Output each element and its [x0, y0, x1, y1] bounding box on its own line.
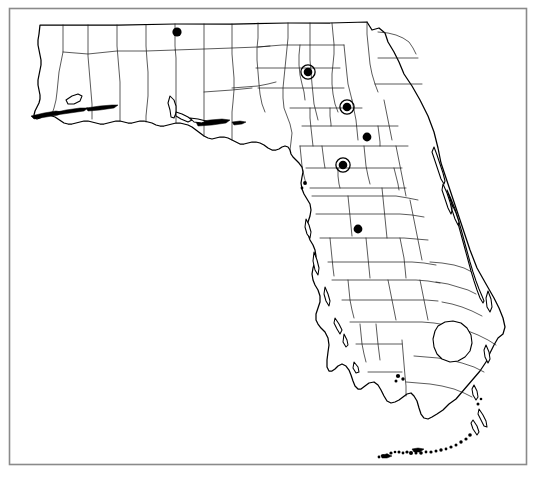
- key-dot-20: [389, 451, 392, 454]
- gulf-small-island-2: [401, 377, 404, 380]
- map-figure: [0, 0, 535, 479]
- key-dot-7: [449, 445, 452, 448]
- gulf-small-island-1: [396, 374, 400, 378]
- key-dot-12: [425, 451, 428, 454]
- florida-mainland-outline: [34, 22, 505, 419]
- key-dot-5: [459, 440, 462, 443]
- state-outline-group: [34, 22, 505, 419]
- marker-1[interactable]: [172, 27, 181, 36]
- marker-6[interactable]: [354, 225, 363, 234]
- key-dot-8: [445, 448, 448, 451]
- key-largo: [478, 409, 487, 427]
- marker-dot-solid: [363, 133, 372, 142]
- marker-dot-solid: [339, 161, 348, 170]
- key-dot-9: [439, 448, 442, 451]
- key-dot-3: [468, 433, 472, 437]
- gulf-small-island-3: [395, 380, 398, 383]
- florida-distribution-map: [0, 0, 535, 479]
- marker-4[interactable]: [363, 133, 372, 142]
- key-dot-15: [409, 451, 413, 455]
- key-west-cluster: [412, 448, 424, 452]
- key-dot-16: [405, 450, 408, 453]
- key-dot-17: [402, 452, 405, 455]
- barrier-island-keybiscayne: [472, 385, 478, 400]
- key-dot-18: [398, 451, 401, 454]
- marquesas-keys: [381, 454, 392, 458]
- key-dot-10: [435, 450, 438, 453]
- marker-dot-solid: [304, 68, 313, 77]
- key-dot-1: [477, 403, 480, 406]
- key-dot-23: [378, 456, 381, 459]
- marker-dot-solid: [354, 225, 363, 234]
- key-dot-19: [394, 451, 397, 454]
- marker-dot-solid: [343, 103, 352, 112]
- upper-keys: [471, 420, 479, 435]
- big-bend-small-island: [303, 181, 307, 185]
- cedar-key-island: [301, 187, 304, 190]
- key-dot-6: [455, 444, 458, 447]
- marker-dot-solid: [172, 27, 181, 36]
- lake-okeechobee: [433, 321, 472, 362]
- key-dot-11: [429, 450, 432, 453]
- key-dot-4: [464, 437, 467, 440]
- key-dot-2: [480, 398, 483, 401]
